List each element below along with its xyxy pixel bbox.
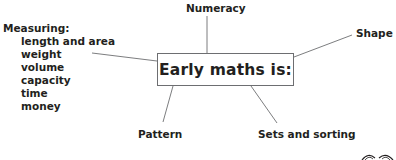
measuring-items: length and area weight volume capacity t… [21, 35, 115, 113]
measuring-item: time [21, 87, 115, 100]
measuring-item: capacity [21, 74, 115, 87]
measuring-item: weight [21, 48, 115, 61]
connector-pattern [163, 86, 173, 122]
central-concept-label: Early maths is: [159, 61, 292, 79]
branch-sets-and-sorting: Sets and sorting [258, 128, 356, 141]
branch-label-measuring: Measuring: [3, 22, 115, 35]
glasses-icon [360, 150, 396, 160]
measuring-item: volume [21, 61, 115, 74]
central-concept-box: Early maths is: [157, 53, 294, 86]
connector-sets [251, 86, 277, 123]
measuring-item: length and area [21, 35, 115, 48]
connector-shape [294, 35, 352, 57]
measuring-item: money [21, 100, 115, 113]
branch-shape: Shape [356, 27, 393, 40]
branch-pattern: Pattern [138, 128, 182, 141]
branch-measuring: Measuring: length and area weight volume… [3, 22, 115, 113]
branch-numeracy: Numeracy [186, 2, 246, 15]
